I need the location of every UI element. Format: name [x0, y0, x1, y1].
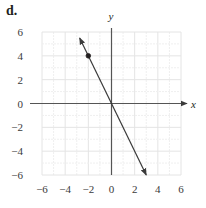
series-line: [80, 38, 147, 175]
y-tick-label: −2: [11, 121, 23, 133]
y-tick-label: 6: [18, 26, 24, 38]
plot-marks: [80, 38, 147, 175]
y-tick-label: −4: [11, 145, 23, 157]
x-tick-label: −4: [59, 183, 71, 195]
data-point: [86, 54, 91, 59]
y-tick-label: −6: [11, 169, 23, 181]
x-tick-label: −6: [36, 183, 48, 195]
x-tick-label: −2: [82, 183, 94, 195]
chart: −6−4−20246−6−4−20246 x y: [0, 0, 206, 208]
y-tick-label: 0: [18, 98, 24, 110]
x-tick-label: 2: [132, 183, 138, 195]
y-axis-label: y: [108, 10, 114, 22]
x-tick-label: 4: [155, 183, 161, 195]
x-axis-label: x: [190, 98, 196, 110]
x-tick-label: 6: [178, 183, 184, 195]
x-tick-label: 0: [109, 183, 115, 195]
y-tick-label: 4: [18, 50, 24, 62]
y-tick-label: 2: [18, 74, 24, 86]
